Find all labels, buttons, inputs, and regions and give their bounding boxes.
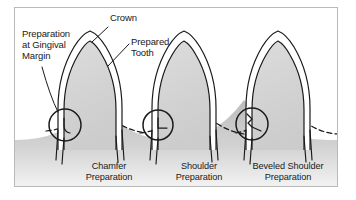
caption-shoulder-line-1: Shoulder: [149, 161, 249, 172]
label-gingival-line-2: at Gingival: [22, 39, 70, 50]
label-preparation-at-gingival-margin: Preparation at Gingival Margin: [22, 28, 70, 62]
label-prepared-tooth-line-2: Tooth: [131, 47, 169, 58]
caption-chamfer-preparation: Chamfer Preparation: [59, 161, 159, 183]
leader-line-prepared-tooth: [108, 44, 129, 66]
label-crown-line-1: Crown: [110, 12, 137, 23]
specimen-beveled-shoulder: [236, 31, 312, 164]
label-gingival-line-3: Margin: [22, 50, 70, 61]
leader-line-gingival-margin: [42, 67, 58, 112]
label-prepared-tooth: Prepared Tooth: [131, 36, 169, 58]
caption-beveled-line-1: Beveled Shoulder: [236, 161, 340, 172]
label-gingival-line-1: Preparation: [22, 28, 70, 39]
caption-chamfer-line-1: Chamfer: [59, 161, 159, 172]
caption-beveled-shoulder-preparation: Beveled Shoulder Preparation: [236, 161, 340, 183]
dental-preparation-figure: Crown Preparation at Gingival Margin Pre…: [0, 0, 356, 200]
caption-shoulder-line-2: Preparation: [149, 172, 249, 183]
caption-beveled-line-2: Preparation: [236, 172, 340, 183]
label-crown: Crown: [110, 12, 137, 23]
caption-chamfer-line-2: Preparation: [59, 172, 159, 183]
label-prepared-tooth-line-1: Prepared: [131, 36, 169, 47]
caption-shoulder-preparation: Shoulder Preparation: [149, 161, 249, 183]
